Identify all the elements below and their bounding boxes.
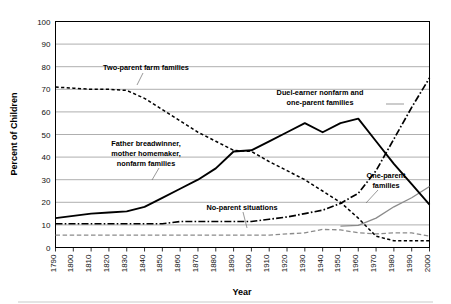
y-tick-label-100: 100 <box>37 18 51 27</box>
annotation-dual-earner-line2: one-parent families <box>287 98 354 107</box>
x-tick-label-1850: 1850 <box>155 254 164 272</box>
y-tick-label-60: 60 <box>42 108 51 117</box>
x-tick-label-1970: 1970 <box>369 254 378 272</box>
y-tick-label-80: 80 <box>42 63 51 72</box>
x-tick-label-1820: 1820 <box>102 254 111 272</box>
x-tick-label-2000: 2000 <box>423 254 432 272</box>
annotation-father-breadwinner-line1: Father breadwinner, <box>111 139 180 148</box>
annotation-father-breadwinner-line2: mother homemaker, <box>111 149 180 158</box>
y-tick-label-50: 50 <box>42 131 51 140</box>
y-tick-label-10: 10 <box>42 221 51 230</box>
x-tick-label-1830: 1830 <box>120 254 129 272</box>
y-tick-label-40: 40 <box>42 153 51 162</box>
y-tick-label-20: 20 <box>42 198 51 207</box>
x-tick-label-1950: 1950 <box>333 254 342 272</box>
chart-figure: 1009080706050403020100 17901800181018201… <box>0 0 451 304</box>
annotation-dual-earner-line1: Duel-earner nonfarm and <box>277 88 364 97</box>
y-tick-label-30: 30 <box>42 176 51 185</box>
annotation-father-breadwinner-line3: nonfarm families <box>117 159 175 168</box>
x-axis-title: Year <box>232 287 252 297</box>
x-tick-label-1980: 1980 <box>387 254 396 272</box>
x-tick-label-1930: 1930 <box>298 254 307 272</box>
x-tick-label-1900: 1900 <box>244 254 253 272</box>
annotation-two-parent-farm-families: Two-parent farm families <box>103 63 189 72</box>
line-chart: 1009080706050403020100 17901800181018201… <box>0 0 451 304</box>
x-tick-label-1940: 1940 <box>316 254 325 272</box>
x-tick-label-1870: 1870 <box>191 254 200 272</box>
y-tick-label-70: 70 <box>42 85 51 94</box>
y-axis-title: Percent of Children <box>9 92 19 175</box>
annotation-no-parent-situations: No-parent situations <box>207 203 278 212</box>
x-tick-label-1910: 1910 <box>262 254 271 272</box>
x-tick-label-1840: 1840 <box>138 254 147 272</box>
x-tick-label-1990: 1990 <box>405 254 414 272</box>
y-tick-label-0: 0 <box>46 244 51 253</box>
y-tick-label-90: 90 <box>42 40 51 49</box>
x-tick-label-1880: 1880 <box>209 254 218 272</box>
x-tick-label-1800: 1800 <box>66 254 75 272</box>
annotation-one-parent-line2: families <box>372 181 399 190</box>
annotation-one-parent-line1: One-parent <box>367 171 406 180</box>
x-tick-label-1860: 1860 <box>173 254 182 272</box>
x-tick-label-1960: 1960 <box>351 254 360 272</box>
x-tick-label-1810: 1810 <box>84 254 93 272</box>
x-tick-label-1890: 1890 <box>227 254 236 272</box>
x-tick-label-1790: 1790 <box>49 254 58 272</box>
x-tick-label-1920: 1920 <box>280 254 289 272</box>
